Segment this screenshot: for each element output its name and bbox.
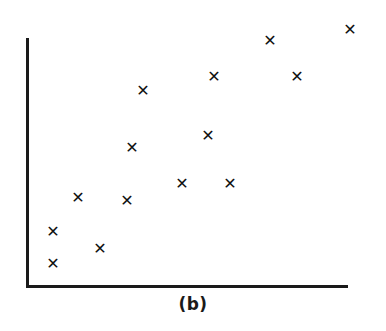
data-point-marker: ✕ (289, 69, 305, 85)
data-point-marker: ✕ (45, 224, 61, 240)
data-point-marker: ✕ (262, 33, 278, 49)
data-point-marker: ✕ (222, 176, 238, 192)
data-point-marker: ✕ (206, 69, 222, 85)
plot-area: ✕✕✕✕✕✕✕✕✕✕✕✕✕✕ (0, 0, 386, 300)
x-axis-line (26, 285, 348, 288)
data-point-marker: ✕ (45, 256, 61, 272)
data-point-marker: ✕ (174, 176, 190, 192)
data-point-marker: ✕ (119, 193, 135, 209)
data-point-marker: ✕ (135, 83, 151, 99)
data-point-marker: ✕ (200, 128, 216, 144)
data-point-marker: ✕ (124, 140, 140, 156)
data-point-marker: ✕ (70, 190, 86, 206)
y-axis-line (26, 38, 29, 288)
data-point-marker: ✕ (92, 241, 108, 257)
scatter-plot-figure: ✕✕✕✕✕✕✕✕✕✕✕✕✕✕ (b) (0, 0, 386, 331)
figure-caption: (b) (0, 294, 386, 314)
data-point-marker: ✕ (342, 22, 358, 38)
